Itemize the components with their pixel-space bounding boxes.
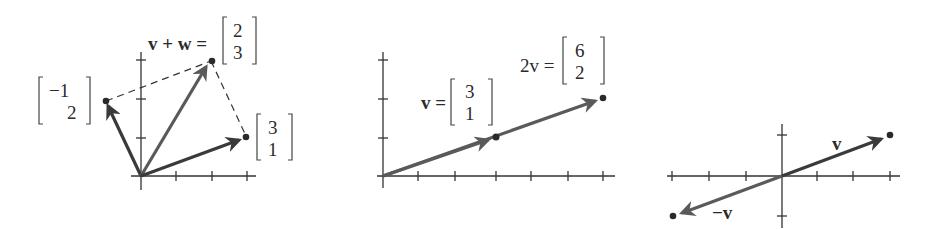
dashed-edge bbox=[106, 61, 211, 101]
figure-scalar-multiple: 2v = 6 2 v = 3 1 bbox=[377, 37, 615, 188]
v-top: 3 bbox=[465, 81, 475, 102]
dashed-edge bbox=[211, 61, 246, 136]
figure-negation: v −v bbox=[667, 124, 900, 228]
point-v bbox=[493, 134, 500, 141]
twov-label: 2v = bbox=[520, 55, 554, 76]
point-w bbox=[103, 98, 110, 105]
twov-bottom: 2 bbox=[575, 62, 585, 83]
point-neg-v bbox=[670, 213, 677, 220]
v-label: v bbox=[832, 133, 842, 154]
vector-diagrams: v + w = 2 3 −1 2 3 1 bbox=[0, 0, 936, 229]
sum-bottom: 3 bbox=[233, 42, 243, 63]
twov-top: 6 bbox=[575, 40, 585, 61]
axes bbox=[131, 52, 256, 190]
point-v bbox=[243, 134, 250, 141]
point-v bbox=[887, 132, 894, 139]
sum-top: 2 bbox=[233, 20, 243, 41]
v-bottom: 1 bbox=[465, 103, 475, 124]
w-bottom: 2 bbox=[67, 102, 77, 123]
v-top: 3 bbox=[268, 117, 278, 138]
neg-v-label: −v bbox=[712, 202, 733, 223]
vector-v bbox=[141, 140, 239, 176]
sum-label: v + w = bbox=[148, 33, 207, 54]
w-top: −1 bbox=[49, 80, 69, 101]
v-bottom: 1 bbox=[268, 139, 278, 160]
figure-vector-sum: v + w = 2 3 −1 2 3 1 bbox=[39, 17, 292, 190]
vector-w bbox=[108, 106, 141, 176]
v-label: v = bbox=[421, 92, 446, 113]
vector-v bbox=[383, 140, 488, 176]
point-2v bbox=[600, 95, 607, 102]
point-sum bbox=[209, 58, 216, 65]
